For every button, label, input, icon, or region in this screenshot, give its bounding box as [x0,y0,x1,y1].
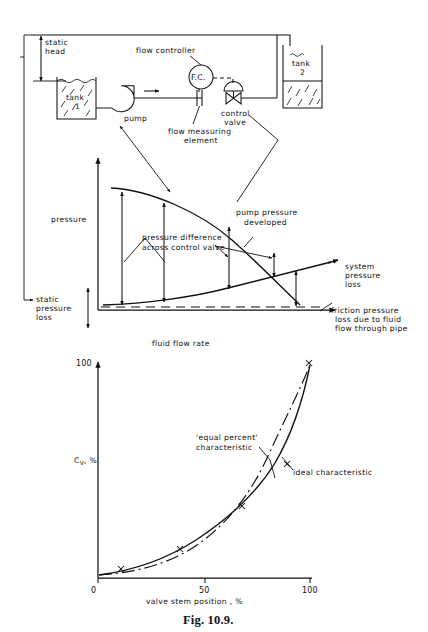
static-head-label-line2: head [45,47,65,56]
cv-marker-point-5 [306,360,312,366]
dp-annotation-line2: across control valve [142,243,225,252]
fc-bubble-label: F.C. [191,73,206,82]
system-loss-annotation-line2: pressure [345,271,381,280]
system-loss-annotation-line1: system [345,262,375,271]
static-loss-label-line3: loss [36,313,52,322]
pump: pump [96,86,202,123]
flow-controller-leader [190,56,201,65]
cv-ymax-tick-label: 100 [76,359,92,368]
cv-axis-label-main: C [74,456,80,465]
flow-element-leader [193,106,200,124]
cv-data-markers [118,360,312,572]
dp-annotation-line1: pressure difference [142,233,222,242]
pressure-chart: pressure fluid flow rate pump pressure d… [36,158,408,348]
pump-pressure-annotation-line1: pump pressure [236,208,298,217]
friction-annotation-line1: friction pressure [331,306,399,315]
flow-rate-axis-label: fluid flow rate [152,339,210,348]
cv-marker-point-4 [284,461,290,467]
control-valve-to-chart-leader [237,115,278,202]
figure-caption: Fig. 10.9. [183,613,234,627]
tank-2: tank 2 [283,45,322,108]
pump-curve-callout-leader [244,237,253,247]
flow-controller-label: flow controller [136,46,196,55]
pump-to-curve-leader [120,126,170,192]
schematic-diagram: static head tank 1 [20,35,322,300]
equal-percent-annotation-line2: characteristic [196,443,253,452]
flow-controller: F.C. flow controller [136,46,233,92]
flow-measuring-label-line1: flow measuring [168,127,231,136]
datum-drop-connector [20,35,31,57]
pump-label: pump [124,114,147,123]
figure-canvas: static head tank 1 [0,0,428,632]
tank1-label-line2: 1 [75,102,80,111]
pump-casing [96,86,134,112]
control-valve: control valve [221,82,277,128]
tank-1: tank 1 [57,77,96,119]
static-head-label-line1: static [45,38,68,47]
system-loss-curve-arrow [328,260,338,263]
ideal-characteristic-leader [282,457,293,470]
cv-x-axis-label: valve stem position , % [146,597,243,606]
cv-xtick-label-0: 0 [91,586,96,595]
equal-percent-annotation-line1: 'equal percent' [196,433,258,442]
static-loss-label-line2: pressure [36,304,72,313]
flow-measuring-label-line2: element [184,136,218,145]
system-loss-annotation-line3: loss [345,280,361,289]
tank1-label-line1: tank [66,93,84,102]
cv-axis-label-tail: , % [84,456,97,465]
figure-root: static head tank 1 [0,0,428,632]
static-head-to-chart-leader [24,57,33,300]
friction-annotation-line2: loss due to fluid [335,315,401,324]
ideal-characteristic-annotation: ideal characteristic [293,468,372,477]
control-valve-label-line2: valve [224,118,246,127]
equal-percent-leader [259,447,275,478]
static-loss-label-line1: static [36,295,59,304]
cv-xtick-label-50: 50 [199,586,210,595]
pressure-axis-label: pressure [51,215,87,224]
friction-annotation-line3: flow through pipe [335,324,408,333]
system-pressure-loss-curve [103,262,331,305]
tank2-label-line2: 2 [300,68,305,77]
pump-pressure-annotation-line2: developed [244,218,287,227]
tank2-label-line1: tank [292,59,310,68]
control-valve-label-line1: control [221,109,250,118]
tank2-inlet-splash [290,54,304,57]
cv-xtick-label-100: 100 [302,586,318,595]
equal-percent-characteristic-curve [99,365,310,575]
ideal-characteristic-curve [99,365,310,575]
cv-chart: 'equal percent' characteristic ideal cha… [74,359,372,606]
tank2-liquid-hatch [287,85,320,106]
